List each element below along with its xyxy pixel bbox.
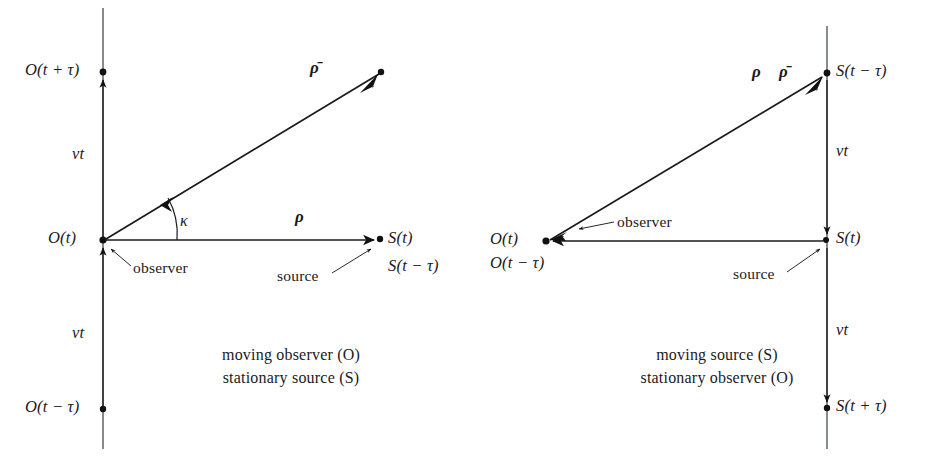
right-dot-s-t	[823, 237, 829, 243]
right-caption-line2: stationary observer (O)	[622, 369, 812, 387]
left-label-o-t-minus-tau: O(t − τ)	[25, 397, 79, 417]
left-label-rho-bar: ρ̄	[310, 58, 319, 78]
right-dot-s-t-minus-tau	[824, 70, 831, 77]
doppler-geometry-figure: O(t + τ) vt O(t) vt O(t − τ) ρ ρ̄ κ obse…	[0, 0, 928, 457]
right-label-rho: ρ	[752, 62, 761, 82]
right-dot-o-t	[542, 237, 549, 244]
left-label-rho: ρ	[295, 207, 304, 227]
left-dot-o-t-plus-tau	[100, 69, 107, 76]
right-observer-leader	[579, 222, 614, 229]
left-label-kappa: κ	[180, 212, 188, 230]
right-source-leader	[787, 249, 820, 272]
left-dot-s-t	[377, 236, 383, 242]
diagram-canvas	[0, 0, 928, 457]
right-label-observer: observer	[617, 213, 672, 231]
left-caption-line1: moving observer (O)	[196, 346, 386, 364]
left-source-leader	[332, 249, 371, 273]
left-label-o-t-plus-tau: O(t + τ)	[25, 60, 79, 80]
right-label-o-t-minus-tau: O(t − τ)	[490, 253, 544, 273]
left-dot-o-t-minus-tau	[100, 406, 106, 412]
right-label-source: source	[733, 265, 775, 283]
left-dot-o-t	[99, 236, 106, 243]
right-label-s-t: S(t)	[836, 228, 861, 248]
right-caption-line1: moving source (S)	[622, 346, 812, 364]
right-dot-s-t-plus-tau	[824, 405, 830, 411]
left-caption-line2: stationary source (S)	[196, 369, 386, 387]
left-label-source: source	[277, 267, 319, 285]
right-rho-start-arrowhead	[550, 232, 567, 241]
right-label-vt-upper: vt	[836, 141, 848, 161]
right-label-vt-lower: vt	[836, 320, 848, 340]
right-label-o-t: O(t)	[490, 229, 518, 249]
left-kappa-arc	[168, 198, 177, 240]
left-label-o-t: O(t)	[48, 228, 76, 248]
left-label-s-t-minus-tau: S(t − τ)	[388, 256, 439, 276]
left-label-vt-lower: vt	[72, 323, 84, 343]
right-label-s-t-minus-tau: S(t − τ)	[836, 61, 887, 81]
left-observer-leader	[111, 249, 131, 266]
left-label-s-t: S(t)	[388, 228, 413, 248]
left-label-vt-upper: vt	[72, 144, 84, 164]
right-label-rho-bar: ρ̄	[779, 62, 788, 82]
left-dot-retarded-source	[378, 69, 384, 75]
left-rhobar-vector	[106, 74, 379, 239]
left-label-observer: observer	[133, 259, 188, 277]
right-label-s-t-plus-tau: S(t + τ)	[836, 396, 887, 416]
right-rho-vector	[550, 77, 822, 240]
